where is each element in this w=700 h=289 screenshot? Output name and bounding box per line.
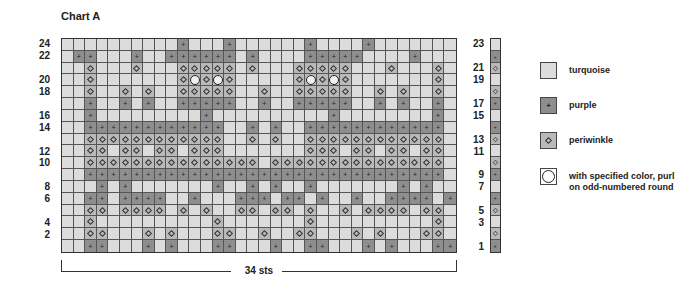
chart-cell bbox=[386, 74, 398, 86]
chart-cell bbox=[120, 240, 132, 252]
plus-icon: + bbox=[448, 243, 452, 250]
plus-icon: + bbox=[123, 124, 127, 131]
chart-cell bbox=[108, 181, 120, 193]
diamond-icon bbox=[87, 230, 94, 237]
chart-cell bbox=[236, 134, 248, 146]
chart-cell bbox=[305, 63, 317, 75]
chart-cell bbox=[398, 205, 410, 217]
chart-cell bbox=[340, 110, 352, 122]
chart-cell: + bbox=[155, 193, 167, 205]
chart-cell: + bbox=[305, 51, 317, 63]
strip-cell bbox=[491, 181, 500, 193]
diamond-icon bbox=[168, 230, 175, 237]
diamond-icon bbox=[156, 147, 163, 154]
chart-cell bbox=[247, 134, 259, 146]
chart-cell bbox=[282, 39, 294, 51]
chart-cell bbox=[132, 205, 144, 217]
chart-cell bbox=[120, 110, 132, 122]
chart-cell bbox=[259, 51, 271, 63]
chart-cell bbox=[271, 110, 283, 122]
chart-cell bbox=[120, 39, 132, 51]
strip-cell: + bbox=[491, 169, 500, 181]
chart-cell bbox=[74, 98, 86, 110]
circle-icon bbox=[542, 170, 555, 183]
chart-cell bbox=[271, 216, 283, 228]
chart-cell: + bbox=[363, 240, 375, 252]
chart-cell bbox=[317, 228, 329, 240]
chart-cell bbox=[189, 134, 201, 146]
chart-cell bbox=[97, 228, 109, 240]
chart-cell bbox=[329, 181, 341, 193]
chart-cell bbox=[271, 39, 283, 51]
chart-cell bbox=[155, 74, 167, 86]
chart-cell bbox=[271, 134, 283, 146]
diamond-icon bbox=[377, 159, 384, 166]
chart-cell bbox=[236, 240, 248, 252]
diamond-icon bbox=[191, 159, 198, 166]
diamond-icon bbox=[87, 65, 94, 72]
plus-icon: + bbox=[158, 195, 162, 202]
chart-cell bbox=[363, 74, 375, 86]
chart-cell bbox=[294, 122, 306, 134]
chart-cell bbox=[444, 39, 456, 51]
chart-cell bbox=[305, 110, 317, 122]
diamond-icon bbox=[261, 88, 268, 95]
chart-cell bbox=[201, 157, 213, 169]
chart-cell bbox=[375, 157, 387, 169]
chart-cell bbox=[421, 216, 433, 228]
row-label: 5 bbox=[470, 205, 484, 216]
stitch-count-bracket: 34 sts bbox=[61, 260, 457, 272]
chart-cell bbox=[410, 228, 422, 240]
chart-cell bbox=[294, 157, 306, 169]
plus-icon: + bbox=[367, 171, 371, 178]
plus-icon: + bbox=[170, 171, 174, 178]
diamond-icon bbox=[435, 218, 442, 225]
legend-label: turquoise bbox=[569, 62, 610, 76]
diamond-icon bbox=[87, 76, 94, 83]
plus-icon: + bbox=[343, 53, 347, 60]
chart-cell: + bbox=[410, 122, 422, 134]
plus-icon: + bbox=[193, 53, 197, 60]
chart-cell bbox=[282, 98, 294, 110]
chart-cell bbox=[247, 39, 259, 51]
chart-cell bbox=[166, 181, 178, 193]
chart-cell: + bbox=[352, 122, 364, 134]
chart-cell bbox=[340, 86, 352, 98]
chart-cell bbox=[155, 157, 167, 169]
chart-cell bbox=[224, 145, 236, 157]
diamond-icon bbox=[156, 207, 163, 214]
chart-cell: + bbox=[120, 122, 132, 134]
plus-icon: + bbox=[355, 53, 359, 60]
chart-cell bbox=[352, 39, 364, 51]
chart-cell bbox=[271, 51, 283, 63]
chart-cell bbox=[85, 181, 97, 193]
chart-cell bbox=[132, 145, 144, 157]
plus-icon: + bbox=[413, 195, 417, 202]
diamond-icon bbox=[423, 230, 430, 237]
plus-icon: + bbox=[123, 171, 127, 178]
chart-cell: + bbox=[85, 169, 97, 181]
chart-cell: + bbox=[294, 169, 306, 181]
chart-cell: + bbox=[317, 193, 329, 205]
legend-item-turquoise: turquoise bbox=[540, 62, 700, 79]
chart-cell bbox=[363, 145, 375, 157]
diamond-icon bbox=[307, 65, 314, 72]
chart-cell bbox=[201, 74, 213, 86]
chart-cell bbox=[97, 205, 109, 217]
chart-cell bbox=[421, 98, 433, 110]
chart-cell bbox=[340, 216, 352, 228]
diamond-icon bbox=[435, 230, 442, 237]
chart-cell bbox=[410, 145, 422, 157]
diamond-icon bbox=[388, 207, 395, 214]
chart-cell bbox=[444, 181, 456, 193]
chart-cell bbox=[421, 228, 433, 240]
chart-cell bbox=[375, 110, 387, 122]
chart-cell bbox=[282, 122, 294, 134]
chart-cell bbox=[352, 134, 364, 146]
chart-cell bbox=[189, 63, 201, 75]
chart-cell: + bbox=[132, 193, 144, 205]
chart-cell bbox=[340, 228, 352, 240]
chart-cell: + bbox=[132, 51, 144, 63]
diamond-icon bbox=[365, 147, 372, 154]
plus-icon: + bbox=[77, 53, 81, 60]
